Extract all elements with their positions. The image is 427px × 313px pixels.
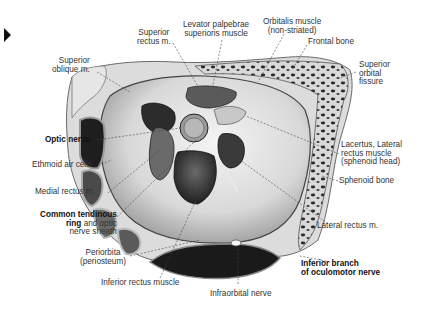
label-orbitalis-muscle: Orbitalis muscle (non-striated) bbox=[263, 18, 321, 35]
infraorbital-nerve-shape bbox=[231, 240, 241, 246]
label-line: Sphenoid bone bbox=[339, 176, 394, 185]
label-line: Infraorbital nerve bbox=[210, 289, 271, 298]
label-frontal-bone: Frontal bone bbox=[308, 38, 354, 47]
label-line: oblique m. bbox=[52, 66, 90, 75]
label-line: Optic nerve bbox=[45, 135, 90, 144]
label-ethmoid-air-cells: Ethmoid air cells bbox=[32, 161, 92, 170]
label-line: Medial rectus m. bbox=[35, 187, 95, 196]
label-line: (sphenoid head) bbox=[341, 158, 402, 167]
label-infraorbital-nerve: Infraorbital nerve bbox=[210, 290, 271, 299]
label-inferior-rectus: Inferior rectus muscle bbox=[101, 279, 179, 288]
label-levator-palpebrae: Levator palpebrae superioris muscle bbox=[183, 21, 249, 38]
label-lateral-rectus: Lateral rectus m. bbox=[317, 222, 378, 231]
label-superior-oblique: Superior oblique m. bbox=[52, 57, 90, 74]
label-line: nerve sheath bbox=[40, 228, 117, 237]
label-sphenoid-bone: Sphenoid bone bbox=[339, 177, 394, 186]
label-line: (non-striated) bbox=[263, 27, 321, 36]
anatomy-figure: Superior rectus m. Levator palpebrae sup… bbox=[0, 0, 427, 313]
label-line: Ethmoid air cells bbox=[32, 160, 92, 169]
label-line: superioris muscle bbox=[183, 30, 249, 39]
label-superior-orbital-fissure: Superior orbital fissure bbox=[359, 61, 390, 87]
label-line: (periosteum) bbox=[80, 258, 126, 267]
label-line: Lateral rectus m. bbox=[317, 221, 378, 230]
label-optic-nerve: Optic nerve bbox=[45, 136, 90, 145]
label-line: of oculomotor nerve bbox=[301, 269, 380, 278]
label-common-tendinous-ring: Common tendinous ring and optic nerve sh… bbox=[40, 211, 117, 237]
label-superior-rectus: Superior rectus m. bbox=[137, 29, 171, 46]
label-lacertus-lateral-rectus: Lacertus, Lateral rectus muscle (sphenoi… bbox=[341, 141, 402, 167]
label-line: Inferior rectus muscle bbox=[101, 278, 179, 287]
label-line: Frontal bone bbox=[308, 37, 354, 46]
label-inferior-branch-oculomotor: Inferior branch of oculomotor nerve bbox=[301, 260, 380, 277]
label-line: fissure bbox=[359, 78, 390, 87]
label-line: rectus m. bbox=[137, 38, 171, 47]
label-medial-rectus: Medial rectus m. bbox=[35, 188, 95, 197]
label-periorbita: Periorbita (periosteum) bbox=[80, 249, 126, 266]
